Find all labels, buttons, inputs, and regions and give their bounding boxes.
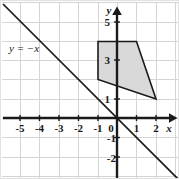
coordinate-graph-figure: -5 -4 -3 -2 -1 0 1 2 5 3 1 -1 -2 x y y =… (0, 0, 179, 179)
x-axis-label: x (165, 122, 172, 134)
y-tick-label--1: -1 (107, 132, 116, 144)
x-tick-label--5: -5 (15, 122, 25, 134)
shaded-region-polygon (98, 42, 156, 100)
x-tick-label--4: -4 (35, 122, 45, 134)
x-tick-label-1: 1 (134, 122, 140, 134)
y-tick-label-5: 5 (105, 16, 111, 28)
y-tick-label--2: -2 (107, 152, 117, 164)
x-tick-label--3: -3 (54, 122, 64, 134)
line-equation-annotation: y = −x (8, 42, 39, 54)
plot-svg: -5 -4 -3 -2 -1 0 1 2 5 3 1 -1 -2 x y y =… (1, 1, 179, 179)
y-axis-label: y (105, 4, 112, 16)
x-tick-label--1: -1 (93, 122, 102, 134)
y-axis-arrow-icon (112, 7, 122, 16)
y-tick-label-3: 3 (105, 54, 111, 66)
x-tick-label--2: -2 (74, 122, 84, 134)
y-tick-label-1: 1 (105, 93, 111, 105)
x-tick-label-2: 2 (153, 122, 159, 134)
